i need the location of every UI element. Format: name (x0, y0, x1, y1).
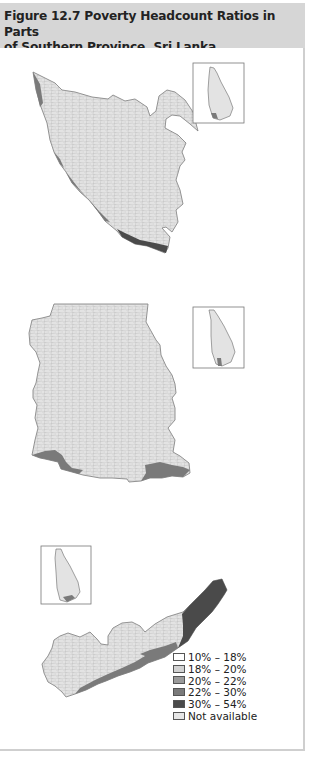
map-1-inset (193, 63, 244, 123)
legend-label: 22% – 30% (188, 686, 247, 698)
legend-item-20-22: 20% – 22% (173, 675, 303, 687)
legend-item-10-18: 10% – 18% (173, 651, 303, 663)
map-2 (29, 304, 190, 482)
legend-item-not-available: Not available (173, 710, 303, 722)
maps-canvas (0, 0, 312, 758)
legend-label: Not available (188, 710, 257, 722)
legend-swatch (173, 653, 185, 661)
legend-label: 18% – 20% (188, 663, 247, 675)
map-2-inset (193, 307, 244, 368)
legend-swatch (173, 665, 185, 673)
legend-item-18-20: 18% – 20% (173, 663, 303, 675)
legend-item-30-54: 30% – 54% (173, 698, 303, 710)
map-1 (33, 72, 198, 253)
legend-swatch (173, 712, 185, 720)
map-3-inset (41, 546, 91, 604)
legend-swatch (173, 700, 185, 708)
legend: 10% – 18% 18% – 20% 20% – 22% 22% – 30% … (173, 651, 303, 722)
legend-swatch (173, 676, 185, 684)
map-3-east-30-54 (178, 579, 227, 648)
legend-swatch (173, 688, 185, 696)
legend-item-22-30: 22% – 30% (173, 686, 303, 698)
legend-label: 20% – 22% (188, 675, 247, 687)
legend-label: 10% – 18% (188, 651, 247, 663)
legend-label: 30% – 54% (188, 698, 247, 710)
